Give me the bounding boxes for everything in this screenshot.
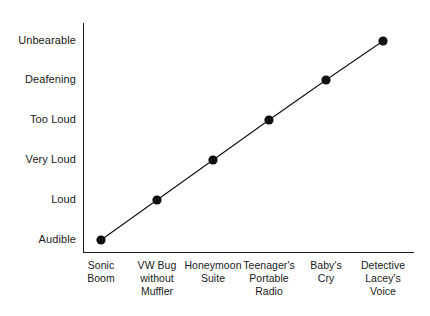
y-tick-label-audible: Audible: [39, 234, 76, 245]
data-point-marker: [96, 235, 105, 244]
x-axis-line: [83, 252, 414, 253]
data-point-marker: [378, 36, 387, 45]
y-tick-label-very-loud: Very Loud: [26, 154, 76, 165]
y-tick-label-too-loud: Too Loud: [30, 114, 76, 125]
x-tick-label-detective-laceys-voice: Detective Lacey's Voice: [344, 259, 422, 298]
y-axis-line: [83, 23, 84, 253]
x-tick-line: Voice: [344, 285, 422, 298]
x-tick-line: Lacey's: [344, 272, 422, 285]
loudness-line-chart: Unbearable Deafening Too Loud Very Loud …: [0, 0, 430, 316]
series-markers: [96, 36, 387, 244]
y-tick-label-unbearable: Unbearable: [18, 35, 76, 46]
x-tick-line: Detective: [344, 259, 422, 272]
data-point-marker: [264, 115, 273, 124]
data-point-marker: [208, 155, 217, 164]
data-point-marker: [321, 75, 330, 84]
y-tick-label-deafening: Deafening: [25, 74, 76, 85]
series-line: [101, 41, 383, 240]
data-point-marker: [152, 195, 161, 204]
y-tick-label-loud: Loud: [51, 194, 76, 205]
x-tick-line: Muffler: [118, 285, 196, 298]
x-tick-line: Radio: [230, 285, 308, 298]
